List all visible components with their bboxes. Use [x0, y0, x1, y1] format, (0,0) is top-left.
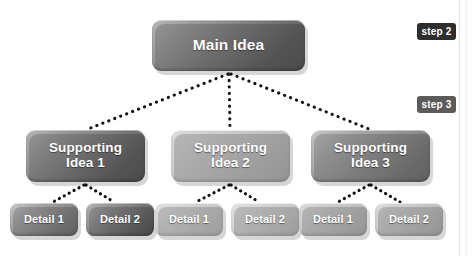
node-detail-1-2-label: Detail 2	[100, 214, 140, 226]
node-detail-3-1[interactable]: Detail 1	[299, 203, 367, 236]
step-badge-3: step 3	[417, 96, 456, 113]
connector-main-to-support-2	[229, 74, 230, 129]
node-detail-3-2-label: Detail 2	[389, 214, 429, 226]
connector-support-1-to-detail-1	[53, 185, 84, 202]
node-supporting-idea-1[interactable]: Supporting Idea 1	[26, 130, 145, 182]
step-badge-2-label: step 2	[421, 26, 451, 37]
connector-support-3-to-detail-2	[371, 185, 400, 202]
node-detail-1-2[interactable]: Detail 2	[86, 203, 154, 236]
node-detail-2-1[interactable]: Detail 1	[155, 203, 223, 236]
node-main-idea-label: Main Idea	[193, 37, 265, 54]
node-detail-2-2[interactable]: Detail 2	[231, 203, 299, 236]
node-supporting-idea-1-label: Supporting Idea 1	[49, 141, 122, 170]
step-badge-3-label: step 3	[421, 99, 451, 110]
node-supporting-idea-2-label: Supporting Idea 2	[194, 141, 267, 170]
connector-support-1-to-detail-2	[86, 185, 114, 202]
node-supporting-idea-3[interactable]: Supporting Idea 3	[311, 130, 430, 182]
node-detail-1-1[interactable]: Detail 1	[10, 203, 78, 236]
connector-main-to-support-1	[88, 74, 228, 129]
step-badge-2: step 2	[417, 23, 456, 40]
page-edge-line-secondary	[466, 0, 467, 256]
node-detail-3-1-label: Detail 1	[313, 214, 353, 226]
connector-support-3-to-detail-1	[338, 185, 369, 202]
page-edge-line	[459, 0, 460, 256]
node-detail-2-2-label: Detail 2	[245, 214, 285, 226]
connector-support-2-to-detail-1	[196, 185, 229, 202]
connector-support-2-to-detail-2	[231, 185, 259, 202]
diagram-canvas: Main Idea Supporting Idea 1 Supporting I…	[0, 0, 475, 256]
node-detail-3-2[interactable]: Detail 2	[375, 203, 443, 236]
node-supporting-idea-3-label: Supporting Idea 3	[334, 141, 407, 170]
node-detail-1-1-label: Detail 1	[24, 214, 64, 226]
node-main-idea[interactable]: Main Idea	[152, 20, 305, 71]
connector-main-to-support-3	[231, 74, 369, 129]
node-detail-2-1-label: Detail 1	[169, 214, 209, 226]
node-supporting-idea-2[interactable]: Supporting Idea 2	[171, 130, 290, 182]
